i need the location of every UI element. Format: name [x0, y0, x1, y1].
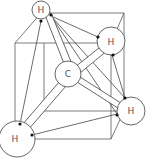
atom-h-right-top: H — [97, 27, 125, 55]
svg-text:H: H — [12, 134, 19, 144]
svg-text:H: H — [128, 106, 135, 116]
svg-text:C: C — [65, 69, 71, 79]
atom-h-bottom-left: H — [0, 121, 35, 157]
svg-text:H: H — [108, 37, 115, 47]
atom-h-right-low: H — [117, 97, 145, 125]
atom-c-center: C — [55, 61, 81, 87]
methane-cube-diagram: H H C H H — [0, 0, 151, 163]
svg-text:H: H — [38, 5, 45, 15]
atom-h-top: H — [32, 1, 50, 19]
